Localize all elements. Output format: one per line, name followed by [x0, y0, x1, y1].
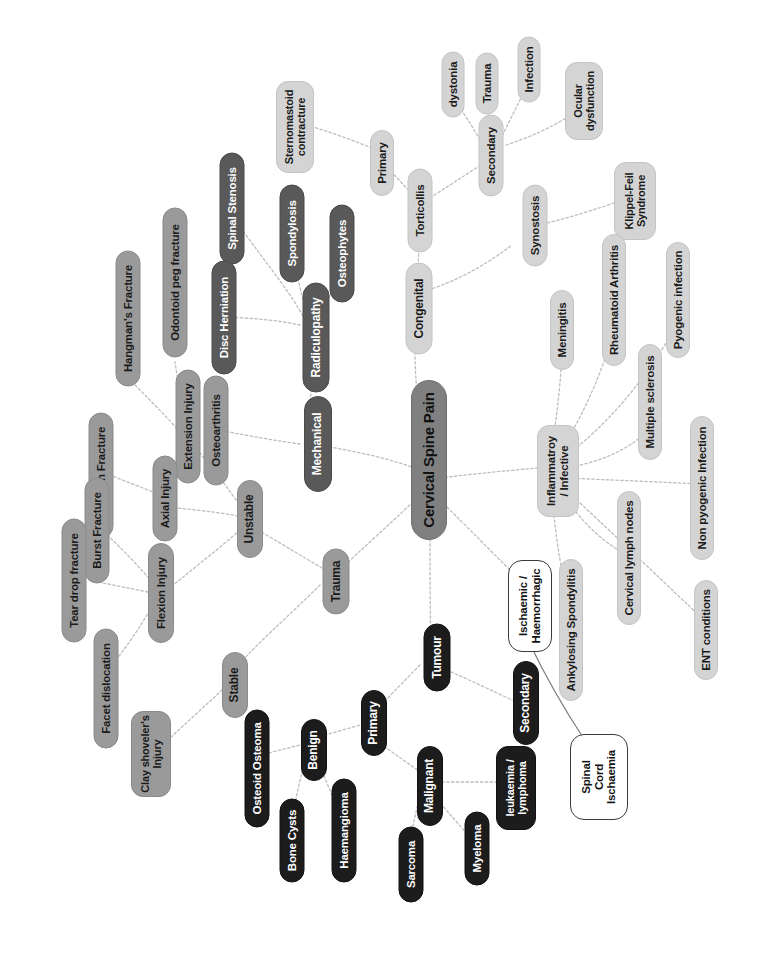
node-stable[interactable]: Stable [222, 652, 248, 718]
node-pyogenic-infection-label: Pyogenic infection [672, 251, 685, 350]
node-tear-drop-label: Tear drop fracture [68, 533, 81, 628]
node-sarcoma[interactable]: Sarcoma [399, 827, 424, 903]
node-ischaemic-haemorrhagic[interactable]: Ischaemic / Haemorrhagic [508, 560, 552, 652]
node-bone-cysts[interactable]: Bone Cysts [280, 799, 305, 883]
node-pyogenic-infection[interactable]: Pyogenic infection [666, 242, 690, 358]
edge-congenital-synostosis [428, 245, 512, 290]
node-multiple-sclerosis[interactable]: Multiple sclerosis [638, 344, 662, 460]
node-congenital[interactable]: Congenital [406, 263, 433, 355]
edge-trauma-unstable [258, 530, 322, 568]
node-radiculopathy[interactable]: Radiculopathy [303, 283, 330, 393]
edge-primary-benign [322, 724, 364, 736]
node-extension-injury[interactable]: Extension Injury [176, 370, 201, 484]
node-odontoid-peg-label: Odontoid peg fracture [169, 224, 182, 341]
node-malignant-label: Malignant [423, 759, 436, 813]
node-tumour[interactable]: Tumour [424, 624, 451, 692]
node-infection-torticollis[interactable]: Infection [518, 37, 541, 103]
node-primary-tumour[interactable]: Primary [361, 690, 387, 756]
edge-primary-sternomastoid [310, 126, 372, 148]
node-primary-torticollis[interactable]: Primary [370, 130, 394, 196]
node-spinal-stenosis-label: Spinal Stenosis [226, 167, 239, 250]
node-trauma-torticollis[interactable]: Trauma [476, 53, 499, 115]
node-unstable-label: Unstable [243, 494, 256, 543]
edge-synostosis-klippel [538, 200, 622, 225]
node-axial-injury[interactable]: Axial Injury [153, 456, 178, 542]
node-osteoarthritis[interactable]: Osteoarthritis [204, 376, 229, 486]
node-dystonia-label: dystonia [447, 62, 460, 108]
node-tumour-label: Tumour [430, 636, 443, 679]
node-secondary-torticollis[interactable]: Secondary [479, 115, 504, 197]
node-congenital-label: Congenital [412, 279, 425, 339]
node-infection-torticollis-label: Infection [523, 46, 536, 92]
node-root[interactable]: Cervical Spine Pain [411, 380, 447, 540]
node-radiculopathy-label: Radiculopathy [309, 297, 322, 377]
node-multiple-sclerosis-label: Multiple sclerosis [644, 356, 657, 449]
node-clay-shovelers-label: Clay shoveler's Injury [139, 715, 164, 792]
node-ischaemic-haemorrhagic-label: Ischaemic / Haemorrhagic [517, 569, 543, 644]
node-trauma-label: Trauma [329, 561, 342, 603]
node-odontoid-peg-fracture[interactable]: Odontoid peg fracture [163, 208, 188, 358]
edge-root-trauma [338, 495, 420, 572]
node-primary-torticollis-label: Primary [376, 142, 389, 183]
edge-mechanical-osteoarthritis [218, 430, 300, 444]
node-leukaemia-lymphoma-label: leukaemia / lymphoma [504, 759, 529, 816]
node-benign[interactable]: Benign [301, 719, 327, 781]
node-myeloma-label: Myeloma [471, 825, 484, 873]
node-klippel-feil-syndrome[interactable]: Klippel-Feil Syndrome [614, 162, 656, 240]
node-haemangioma[interactable]: Haemangioma [332, 779, 357, 883]
node-disc-herniation-label: Disc Herniation [218, 277, 231, 358]
node-flexion-injury-label: Flexion Injury [155, 557, 168, 629]
node-osteophytes-label: Osteophytes [336, 220, 349, 287]
node-flexion-injury[interactable]: Flexion Injury [148, 543, 174, 643]
node-klippel-feil-label: Klippel-Feil Syndrome [623, 173, 648, 230]
node-torticollis[interactable]: Torticollis [408, 169, 433, 253]
node-cervical-lymph-nodes[interactable]: Cervical lymph nodes [617, 491, 641, 625]
node-spondylosis-label: Spondylosis [286, 200, 299, 266]
node-non-pyogenic-label: Non pyogenic Infection [696, 427, 709, 550]
node-synostosis-label: Synostosis [529, 196, 542, 255]
node-ankylosing-spondylitis[interactable]: Ankylosing Spondylitis [559, 559, 583, 701]
node-ent-conditions[interactable]: ENT conditions [694, 580, 718, 680]
node-secondary-tumour[interactable]: Secondary [513, 661, 539, 745]
node-tear-drop-fracture[interactable]: Tear drop fracture [62, 519, 87, 643]
node-facet-dislocation[interactable]: Facet dislocation [94, 629, 119, 749]
edge-root-ischaemic [440, 500, 510, 570]
node-non-pyogenic-infection[interactable]: Non pyogenic Infection [690, 416, 714, 560]
node-rheumatoid-arthritis-label: Rheumatoid Arthritis [608, 245, 621, 355]
node-dystonia[interactable]: dystonia [442, 52, 465, 118]
node-spinal-cord-ischaemia-label: Spinal Cord Ischaemia [580, 750, 619, 804]
node-burst-fracture[interactable]: Burst Fracture [85, 478, 110, 584]
edge-torticollis-secondary [430, 163, 484, 198]
node-synostosis[interactable]: Synostosis [523, 185, 548, 267]
node-primary-tumour-label: Primary [367, 701, 380, 744]
node-inflammatory-infective[interactable]: Inflammatroy / Infective [537, 425, 579, 517]
node-disc-herniation[interactable]: Disc Herniation [212, 261, 237, 375]
edge-extension-hangmans [130, 380, 180, 432]
node-spinal-stenosis[interactable]: Spinal Stenosis [220, 153, 245, 265]
node-spondylosis[interactable]: Spondylosis [280, 185, 305, 283]
node-osteoid-osteoma[interactable]: Osteoid Osteoma [245, 710, 270, 828]
node-meningitis[interactable]: Meningitis [550, 290, 574, 370]
node-ocular-dysfunction[interactable]: Ocular dysfunction [565, 62, 603, 140]
node-clay-shovelers-injury[interactable]: Clay shoveler's Injury [131, 711, 171, 797]
node-benign-label: Benign [307, 730, 320, 769]
node-inflammatory-label: Inflammatroy / Infective [545, 436, 571, 506]
mind-map-canvas: Cervical Spine Pain Mechanical Radiculop… [0, 0, 765, 967]
node-mechanical-label: Mechanical [311, 413, 324, 476]
node-cervical-lymph-nodes-label: Cervical lymph nodes [623, 501, 636, 616]
node-osteophytes[interactable]: Osteophytes [330, 205, 355, 303]
node-hangmans-fracture[interactable]: Hangman's Fracture [116, 251, 141, 387]
node-spinal-cord-ischaemia[interactable]: Spinal Cord Ischaemia [570, 734, 628, 820]
node-rheumatoid-arthritis[interactable]: Rheumatoid Arthritis [602, 234, 626, 366]
edge-inflam-nonpyogenic [568, 478, 700, 484]
node-ocular-dysfunction-label: Ocular dysfunction [572, 71, 597, 131]
node-myeloma[interactable]: Myeloma [465, 812, 490, 886]
node-leukaemia-lymphoma[interactable]: leukaemia / lymphoma [496, 746, 536, 830]
node-mechanical[interactable]: Mechanical [304, 396, 332, 492]
node-unstable[interactable]: Unstable [237, 480, 263, 558]
node-sternomastoid-contracture[interactable]: Sternomastoid contracture [276, 81, 314, 173]
node-hangmans-fracture-label: Hangman's Fracture [122, 265, 135, 372]
node-malignant[interactable]: Malignant [417, 746, 443, 826]
node-trauma[interactable]: Trauma [323, 549, 350, 615]
node-sarcoma-label: Sarcoma [405, 841, 418, 888]
